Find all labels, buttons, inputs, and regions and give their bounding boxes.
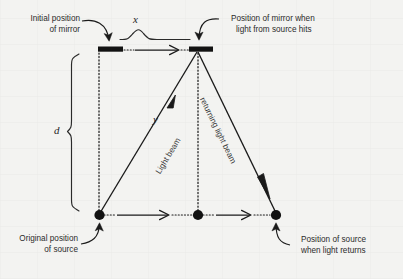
callout-leader-initial-mirror: [82, 20, 109, 40]
callout-leader-source-returns: [276, 224, 290, 245]
diagram-canvas: Initial position of mirror Position of m…: [0, 0, 403, 279]
label-original-source-line1: Original position: [19, 234, 78, 243]
label-mirror-when-hit-line1: Position of mirror when: [231, 14, 315, 23]
label-source-when-returns-line1: Position of source: [301, 235, 366, 244]
label-measure-x: x: [133, 13, 138, 25]
light-beam-outgoing: [100, 52, 197, 213]
mirror-bar-initial: [98, 47, 123, 52]
label-source-when-returns-line2: when light returns: [301, 246, 366, 255]
label-original-source: Original position of source: [4, 233, 78, 255]
source-dot-initial: [94, 210, 104, 220]
brace-horizontal-x: [120, 30, 190, 40]
source-dot-final: [271, 210, 281, 220]
label-initial-mirror-line2: of mirror: [50, 25, 80, 34]
label-original-source-line2: of source: [44, 245, 78, 254]
label-initial-mirror: Initial position of mirror: [6, 13, 80, 35]
callout-leader-mirror-hit: [199, 19, 219, 39]
callout-leader-original-source: [81, 224, 100, 244]
source-dot-middle: [193, 210, 203, 220]
light-beam-returning: [198, 52, 276, 213]
mirror-bar-final: [189, 47, 213, 52]
label-source-when-returns: Position of source when light returns: [301, 234, 401, 256]
label-mirror-when-hit: Position of mirror when light from sourc…: [231, 13, 399, 35]
brace-vertical-d: [68, 54, 80, 211]
label-mirror-when-hit-line2: light from source hits: [231, 25, 312, 34]
label-initial-mirror-line1: Initial position: [30, 14, 80, 23]
label-measure-d: d: [54, 124, 60, 136]
label-measure-y: y: [153, 113, 158, 125]
